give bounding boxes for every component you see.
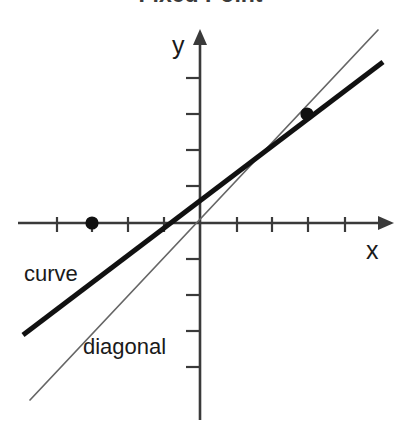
fixed-point-figure: Fixed Point (0, 0, 401, 430)
curve-series-label: curve (24, 263, 78, 285)
plot-canvas (0, 0, 401, 430)
diagonal-series-label: diagonal (83, 336, 166, 358)
fixed-point-marker (300, 107, 313, 120)
x-axis-label: x (366, 238, 379, 263)
y-axis-label: y (172, 33, 185, 58)
y-axis-arrowhead (193, 29, 207, 45)
x-axis-arrowhead (378, 216, 394, 230)
curve-line (23, 62, 383, 335)
axes-group (18, 29, 394, 420)
start-point-marker (85, 216, 98, 229)
